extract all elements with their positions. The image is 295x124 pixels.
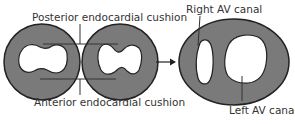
posterior-cushion-label: Posterior endocardial cushion (32, 11, 187, 23)
stage-3-ellipse (179, 19, 289, 105)
av-canal-development-diagram: Posterior endocardial cushion Anterior e… (0, 0, 295, 124)
stage-1-circle (4, 24, 80, 100)
stage-2-circle (82, 24, 158, 100)
arrow-icon (156, 59, 176, 66)
right-av-canal-label: Right AV canal (186, 3, 262, 15)
stage-1-lumen (19, 45, 68, 73)
anterior-cushion-label: Anterior endocardial cushion (34, 96, 185, 108)
left-av-canal-label: Left AV canal (229, 104, 295, 116)
right-av-canal-lumen (196, 40, 213, 84)
left-av-canal-lumen (225, 35, 267, 83)
